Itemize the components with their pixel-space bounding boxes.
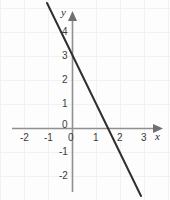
x-tick-label-2: 2: [117, 133, 123, 143]
y-tick-label-3: 3: [62, 51, 68, 61]
y-tick-label-0: 0: [62, 120, 68, 130]
y-tick-label--2: -2: [59, 171, 68, 181]
x-axis-label: x: [155, 131, 160, 142]
y-tick-label-1: 1: [62, 99, 68, 109]
y-tick-label-4: 4: [62, 27, 68, 37]
x-tick-label-1: 1: [93, 133, 99, 143]
y-tick-label-2: 2: [62, 75, 68, 85]
x-tick-label--1: -1: [44, 133, 53, 143]
coordinate-plane-svg: [0, 0, 170, 200]
graph-canvas: -2 -1 0 1 2 3 4 3 2 1 0 -1 -2 y x: [0, 0, 170, 200]
x-tick-label-3: 3: [141, 133, 147, 143]
x-tick-label--2: -2: [20, 133, 29, 143]
y-axis-arrow: [68, 11, 77, 21]
y-tick-label--1: -1: [59, 147, 68, 157]
vertical-gridlines: [1, 0, 169, 200]
x-tick-label-0: 0: [68, 133, 74, 143]
y-axis: [68, 11, 77, 192]
y-axis-label: y: [61, 7, 66, 18]
